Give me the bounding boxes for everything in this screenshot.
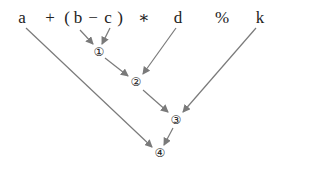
arrow-d-to-2 <box>143 28 176 74</box>
node-1: ① <box>93 46 105 58</box>
node-4: ④ <box>154 147 166 159</box>
arrow-b-to-1 <box>80 30 93 44</box>
arrow-2-to-3 <box>143 90 168 112</box>
arrow-c-to-1 <box>102 28 110 44</box>
arrow-3-to-4 <box>164 128 173 145</box>
arrow-k-to-3 <box>183 28 256 112</box>
node-2: ② <box>130 76 142 88</box>
arrow-1-to-2 <box>105 58 128 76</box>
node-3: ③ <box>170 114 182 126</box>
